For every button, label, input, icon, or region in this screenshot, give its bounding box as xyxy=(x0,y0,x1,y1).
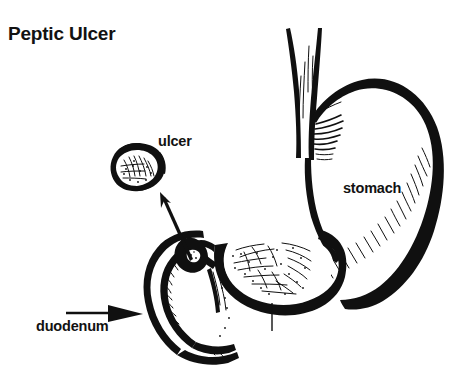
page-title: Peptic Ulcer xyxy=(8,23,116,44)
ulcer-crater-texture xyxy=(121,156,154,179)
anatomy-drawing: Peptic Ulcer ulcer stomach duodenum xyxy=(0,0,461,372)
peptic-ulcer-illustration: Peptic Ulcer ulcer stomach duodenum xyxy=(0,0,461,372)
stomach-label: stomach xyxy=(343,180,401,196)
antrum-cutaway xyxy=(214,230,346,315)
duodenum-label: duodenum xyxy=(36,318,109,334)
ulcer-inset xyxy=(111,143,166,191)
ulcer-label: ulcer xyxy=(158,133,192,149)
duodenum-stipple xyxy=(219,287,230,337)
esophagus xyxy=(286,28,322,160)
